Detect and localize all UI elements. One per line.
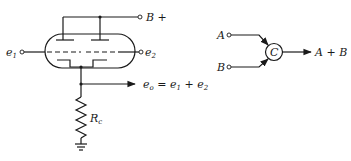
sum-label: A + B bbox=[314, 46, 347, 59]
e2-terminal bbox=[139, 50, 143, 54]
b-plus-terminal bbox=[138, 15, 142, 19]
b-label: B bbox=[216, 61, 225, 74]
output-equation: eo = e1 + e2 bbox=[143, 78, 209, 92]
resistor-icon bbox=[76, 97, 86, 138]
junction-dot bbox=[98, 15, 101, 18]
node-label: C bbox=[270, 46, 279, 59]
tube-circuit: B + e1 e2 eo = e1 + e2 Rc bbox=[6, 11, 209, 150]
b-terminal bbox=[227, 65, 231, 69]
b-arrow bbox=[231, 59, 268, 67]
e1-terminal bbox=[20, 50, 24, 54]
e1-label: e1 bbox=[6, 46, 17, 60]
ground-icon bbox=[75, 138, 87, 150]
a-arrow bbox=[231, 35, 268, 45]
adder-block: A B C A + B bbox=[216, 29, 347, 74]
b-plus-label: B + bbox=[145, 11, 167, 24]
adder-diagram: B + e1 e2 eo = e1 + e2 Rc bbox=[0, 0, 351, 161]
a-terminal bbox=[227, 33, 231, 37]
e2-label: e2 bbox=[145, 46, 157, 60]
tube-envelope bbox=[45, 34, 135, 68]
a-label: A bbox=[216, 29, 225, 42]
resistor-label: Rc bbox=[89, 112, 102, 126]
